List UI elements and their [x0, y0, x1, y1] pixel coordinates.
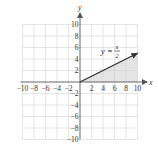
x-tick-label: 10: [134, 84, 142, 93]
equation-numerator: x: [115, 43, 119, 50]
x-tick-label: 6: [113, 84, 117, 93]
y-tick-label: 8: [75, 32, 79, 41]
x-tick-label: 8: [124, 84, 128, 93]
y-tick-label: 4: [75, 55, 79, 64]
y-tick-label: 2: [75, 66, 79, 75]
x-tick-label: −10: [17, 84, 29, 93]
y-tick-label: −8: [71, 124, 79, 133]
x-tick-label: −6: [42, 84, 50, 93]
y-tick-label: −6: [71, 112, 79, 121]
y-tick-label: 6: [75, 43, 79, 52]
x-axis-label: x: [148, 78, 153, 87]
x-tick-label: 4: [101, 84, 105, 93]
y-tick-label: −10: [67, 135, 79, 144]
equation-denominator: 2: [116, 52, 120, 59]
equation-lhs: y =: [100, 46, 113, 56]
x-tick-label: −8: [30, 84, 38, 93]
y-axis-label: y: [77, 3, 82, 12]
y-tick-label: 10: [71, 20, 79, 29]
coordinate-plane-chart: −10−8−6−4−2246810108642−2−4−6−8−10 x y y…: [0, 0, 158, 156]
y-tick-label: −4: [71, 101, 79, 110]
x-tick-label: −4: [53, 84, 61, 93]
y-tick-label: −2: [71, 89, 79, 98]
x-tick-label: 2: [90, 84, 94, 93]
